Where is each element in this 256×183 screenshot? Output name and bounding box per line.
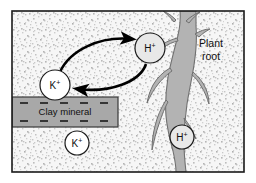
plant-root-label-line2: root (202, 50, 220, 62)
ion-h-solution: H+ (170, 125, 194, 149)
ion-charge: + (56, 79, 60, 86)
soil-matrix: Clay mineral K+ H+ K+ (12, 11, 244, 172)
soil-cation-exchange-diagram: Clay mineral K+ H+ K+ (0, 0, 256, 183)
plant-root-label-line1: Plant (199, 37, 223, 49)
ion-h-exchange: H+ (135, 33, 165, 63)
ion-k-solution: K+ (65, 131, 89, 155)
clay-mineral-label: Clay mineral (39, 106, 92, 117)
ion-element: H (144, 43, 151, 54)
ion-charge: + (184, 131, 188, 138)
diagram-canvas: Clay mineral K+ H+ K+ (0, 0, 256, 183)
ion-element: H (176, 132, 183, 143)
plant-root-label: Plant root (199, 37, 223, 62)
ion-charge: + (78, 137, 82, 144)
ion-k-exchange: K+ (40, 70, 70, 100)
clay-mineral: Clay mineral (12, 97, 118, 127)
ion-charge: + (152, 42, 156, 49)
